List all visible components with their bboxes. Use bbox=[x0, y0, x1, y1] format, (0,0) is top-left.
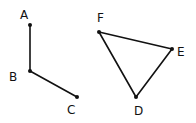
label-E: E bbox=[177, 45, 185, 59]
label-B: B bbox=[9, 70, 17, 84]
segment-DF bbox=[99, 32, 136, 97]
label-F: F bbox=[97, 11, 104, 25]
diagram-svg: ABCFED bbox=[0, 0, 196, 123]
diagram-canvas: ABCFED bbox=[0, 0, 196, 123]
segment-FE bbox=[99, 32, 172, 49]
label-D: D bbox=[134, 104, 143, 118]
point-F bbox=[97, 30, 101, 34]
point-B bbox=[28, 69, 32, 73]
point-E bbox=[170, 47, 174, 51]
point-D bbox=[134, 95, 138, 99]
open-polyline: ABC bbox=[9, 8, 79, 117]
label-A: A bbox=[20, 8, 29, 22]
segment-ED bbox=[136, 49, 172, 97]
segment-BC bbox=[30, 71, 77, 97]
label-C: C bbox=[67, 103, 75, 117]
point-C bbox=[75, 95, 79, 99]
triangle: FED bbox=[97, 11, 185, 118]
point-A bbox=[28, 23, 32, 27]
